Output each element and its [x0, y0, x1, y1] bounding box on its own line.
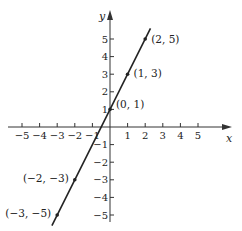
y-tick-label: −2	[93, 157, 108, 168]
y-axis-label: y	[98, 10, 106, 23]
x-axis-arrow-icon	[222, 124, 232, 130]
data-point	[108, 108, 112, 112]
data-point	[143, 37, 147, 41]
y-tick-label: 4	[102, 51, 108, 62]
point-label: (−3, −5)	[5, 207, 51, 219]
x-tick-label: 2	[142, 130, 148, 141]
x-tick-label: 5	[195, 130, 201, 141]
y-tick-label: −5	[93, 210, 108, 221]
x-tick-label: 3	[160, 130, 166, 141]
y-tick-label: −1	[93, 139, 108, 150]
data-point	[73, 178, 77, 182]
x-axis-label: x	[226, 132, 233, 145]
data-point	[126, 72, 130, 76]
y-tick-label: −3	[93, 174, 108, 185]
data-point	[55, 213, 59, 217]
point-label: (−2, −3)	[23, 172, 69, 184]
y-axis-arrow-icon	[107, 10, 113, 20]
x-tick-label: 4	[177, 130, 183, 141]
point-label: (1, 3)	[134, 67, 162, 79]
y-tick-label: 1	[102, 104, 108, 115]
y-tick-label: 5	[102, 34, 108, 45]
point-label: (0, 1)	[116, 98, 144, 110]
y-tick-label: −4	[93, 192, 108, 203]
x-tick-label: −5	[15, 130, 30, 141]
line-chart: xy −5−4−3−2−112345−5−4−3−2−112345 (−3, −…	[0, 0, 242, 231]
y-tick-label: 2	[102, 86, 108, 97]
axes: xy	[8, 10, 233, 222]
x-tick-label: −3	[50, 130, 65, 141]
x-tick-label: −4	[32, 130, 47, 141]
y-tick-label: 3	[102, 69, 108, 80]
x-tick-label: −2	[67, 130, 82, 141]
x-tick-label: 1	[124, 130, 130, 141]
point-label: (2, 5)	[151, 33, 179, 45]
